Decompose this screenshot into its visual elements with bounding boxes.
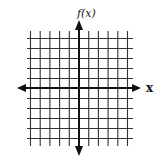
- y-axis-up-arrow-icon: [75, 20, 83, 30]
- x-axis-left-arrow-icon: [17, 84, 26, 92]
- y-axis-down-arrow-icon: [75, 146, 83, 156]
- x-axis-label: x: [146, 81, 154, 95]
- coordinate-grid: f(x) x: [0, 0, 163, 165]
- x-axis-right-arrow-icon: [132, 84, 141, 92]
- y-axis-label: f(x): [76, 7, 96, 20]
